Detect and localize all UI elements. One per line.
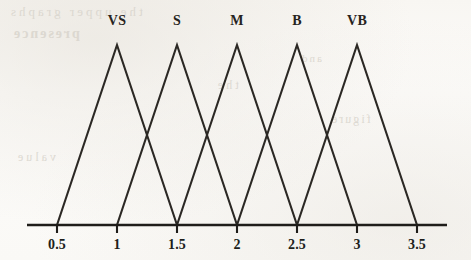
membership-plot-svg bbox=[0, 0, 471, 260]
x-axis-tick-label-1-5: 1.5 bbox=[168, 237, 186, 253]
fuzzy-set-label-m: M bbox=[230, 13, 244, 29]
fuzzy-set-label-vs: VS bbox=[108, 13, 127, 29]
x-axis-tick-label-0-5: 0.5 bbox=[48, 237, 66, 253]
x-axis-tick-label-3: 3 bbox=[353, 237, 360, 253]
fuzzy-set-label-vb: VB bbox=[347, 13, 367, 29]
membership-triangle-s bbox=[117, 45, 237, 225]
fuzzy-set-label-b: B bbox=[292, 13, 302, 29]
fuzzy-set-label-s: S bbox=[173, 13, 181, 29]
x-axis-tick-label-3-5: 3.5 bbox=[408, 237, 426, 253]
x-axis-tick-label-2: 2 bbox=[233, 237, 240, 253]
x-axis-tick-label-1: 1 bbox=[113, 237, 120, 253]
membership-triangle-vb bbox=[297, 45, 417, 225]
membership-triangle-m bbox=[177, 45, 297, 225]
x-axis-tick-label-2-5: 2.5 bbox=[288, 237, 306, 253]
membership-curves-group bbox=[57, 45, 417, 225]
fuzzy-membership-figure: the upper graphs presence and the figure… bbox=[0, 0, 471, 260]
membership-triangle-b bbox=[237, 45, 357, 225]
membership-triangle-vs bbox=[57, 45, 177, 225]
